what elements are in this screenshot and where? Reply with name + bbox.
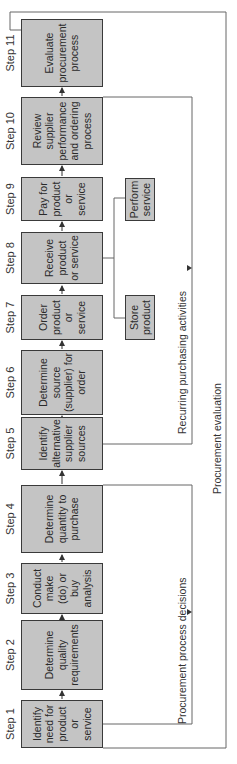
perform-service-text: Perform service bbox=[128, 181, 153, 218]
step-box-3-text: Conduct make (do) or buy analysis bbox=[31, 566, 94, 611]
step-box-6: Determine source (supplier) for order bbox=[21, 350, 103, 415]
step-box-6-text: Determine source (supplier) for order bbox=[37, 353, 87, 412]
step-box-2: Determine quality requirements bbox=[21, 620, 103, 690]
step-box-11: Evaluate procurement process bbox=[21, 19, 103, 87]
step-box-1-text: Identify need for product or service bbox=[31, 703, 94, 745]
recurring-purchasing-activities-label: Recurring purchasing activities bbox=[176, 291, 188, 434]
step-box-7: Order product or service bbox=[21, 295, 103, 340]
step-box-9: Pay for product or service bbox=[21, 177, 103, 221]
store-product-text: Store product bbox=[128, 298, 153, 337]
step-label-10: Step 10 bbox=[4, 97, 16, 165]
step-box-4: Determine quantity to purchase bbox=[21, 485, 103, 553]
step-box-7-text: Order product or service bbox=[37, 298, 87, 337]
step-label-11: Step 11 bbox=[4, 19, 16, 87]
step-label-1: Step 1 bbox=[4, 700, 16, 748]
step-box-8-text: Receive product or service bbox=[43, 235, 81, 281]
procurement-process-decisions-label: Procurement process decisions bbox=[176, 578, 188, 724]
procurement-evaluation-label: Procurement evaluation bbox=[211, 383, 223, 494]
step-box-5-text: Identify alternative supplier sources bbox=[37, 419, 87, 467]
step-box-3: Conduct make (do) or buy analysis bbox=[21, 563, 103, 614]
step-box-11-text: Evaluate procurement process bbox=[43, 22, 81, 84]
step-box-5: Identify alternative supplier sources bbox=[21, 417, 103, 470]
store-product-box: Store product bbox=[125, 295, 155, 340]
step-box-8: Receive product or service bbox=[21, 232, 103, 284]
step-box-2-text: Determine quality requirements bbox=[43, 623, 81, 687]
step-label-6: Step 6 bbox=[4, 350, 16, 415]
step-label-8: Step 8 bbox=[4, 232, 16, 284]
step-box-10-text: Review supplier performance and ordering… bbox=[31, 100, 94, 162]
perform-service-box: Perform service bbox=[125, 178, 155, 221]
step-label-3: Step 3 bbox=[4, 563, 16, 614]
step-box-10: Review supplier performance and ordering… bbox=[21, 97, 103, 165]
step-label-5: Step 5 bbox=[4, 417, 16, 470]
procurement-flowchart: Step 1 Step 2 Step 3 Step 4 Step 5 Step … bbox=[0, 0, 237, 764]
step-label-2: Step 2 bbox=[4, 620, 16, 690]
step-label-4: Step 4 bbox=[4, 485, 16, 553]
step-box-1: Identify need for product or service bbox=[21, 700, 103, 748]
step-label-7: Step 7 bbox=[4, 295, 16, 340]
step-label-9: Step 9 bbox=[4, 177, 16, 221]
step-box-4-text: Determine quantity to purchase bbox=[43, 488, 81, 550]
step-box-9-text: Pay for product or service bbox=[37, 180, 87, 218]
